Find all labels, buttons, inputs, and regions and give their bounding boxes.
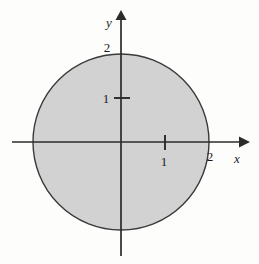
y-axis-arrowhead bbox=[116, 10, 127, 20]
y-axis-label: y bbox=[104, 15, 112, 30]
figure-container: 1 2 1 2 x y bbox=[0, 0, 259, 264]
x-tick-label-1: 1 bbox=[161, 154, 168, 169]
x-axis-label: x bbox=[233, 151, 240, 166]
y-tick-label-2: 2 bbox=[104, 40, 111, 55]
coordinate-plane-figure: 1 2 1 2 x y bbox=[0, 0, 259, 264]
x-tick-label-2: 2 bbox=[207, 149, 214, 164]
y-tick-label-1: 1 bbox=[103, 91, 110, 106]
x-axis-arrowhead bbox=[239, 137, 250, 148]
